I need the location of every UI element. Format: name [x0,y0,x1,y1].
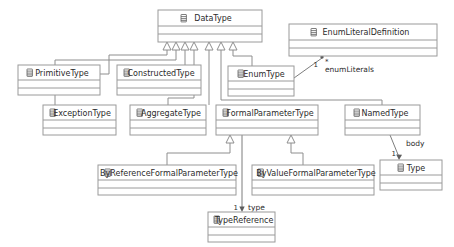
generalization-constructedtype [181,42,189,65]
class-name-enumtype: EnumType [243,70,284,79]
class-name-namedtype: NamedType [361,109,408,118]
class-name-byreferenceformalparametertype: ByReferenceFormalParameterType [100,169,238,178]
uml-class-diagram: 1 * enumLiterals body 1 1 type [0,0,454,247]
class-name-byvalueformalparametertype: ByValueFormalParameterType [256,169,376,178]
assoc-body-role: body [406,139,425,148]
class-name-constructedtype: ConstructedType [127,69,194,78]
generalization-links [55,42,382,165]
class-name-typereference: TypeReference [214,216,274,225]
class-box-datatype[interactable]: DataType [158,10,262,42]
class-box-aggregatetype[interactable]: AggregateType [130,105,206,135]
class-box-enumtype[interactable]: EnumType [228,66,294,96]
diagram-canvas: 1 * enumLiterals body 1 1 type [0,0,454,247]
assoc-enumliterals-role: enumLiterals [325,65,374,74]
class-box-byvalueformalparametertype[interactable]: ByValueFormalParameterType [252,165,376,195]
class-name-exceptiontype: ExceptionType [53,109,111,118]
class-icon [27,69,32,76]
class-name-formalparametertype: FormalParameterType [226,109,313,118]
generalization-formalparametertype [205,42,213,105]
class-box-primitivetype[interactable]: PrimitiveType [18,65,100,95]
assoc-type-target-mult: 1 [234,204,238,212]
generalization-enumtype [229,42,252,66]
class-icon [311,29,316,36]
class-name-primitivetype: PrimitiveType [35,69,89,78]
class-box-constructedtype[interactable]: ConstructedType [117,65,201,95]
class-name-type: Type [406,164,425,173]
assoc-enumliterals-source-mult: 1 [314,61,318,69]
class-box-exceptiontype[interactable]: ExceptionType [43,105,116,135]
class-icon [181,15,186,22]
association-body: body 1 [390,135,425,160]
class-box-enumliteraldefinition[interactable]: EnumLiteralDefinition [289,24,437,56]
association-arrowhead [239,206,244,212]
association-arrowhead [396,155,402,160]
generalization-byreferenceformalparametertype [167,135,234,165]
association-enumliterals: 1 * enumLiterals [294,55,374,78]
class-name-datatype: DataType [194,14,232,23]
class-box-type[interactable]: Type [380,160,442,190]
class-name-aggregatetype: AggregateType [141,109,201,118]
class-box-byreferenceformalparametertype[interactable]: ByReferenceFormalParameterType [98,165,238,195]
generalization-byvalueformalparametertype [287,135,303,165]
class-box-formalparametertype[interactable]: FormalParameterType [216,105,318,135]
class-name-enumliteraldefinition: EnumLiteralDefinition [323,28,410,37]
class-icon [354,109,359,116]
assoc-body-target-mult: 1 [392,150,396,158]
assoc-type-role: type [248,203,265,212]
class-box-namedtype[interactable]: NamedType [345,105,420,135]
class-icon [398,164,403,171]
class-box-typereference[interactable]: TypeReference [208,212,275,242]
